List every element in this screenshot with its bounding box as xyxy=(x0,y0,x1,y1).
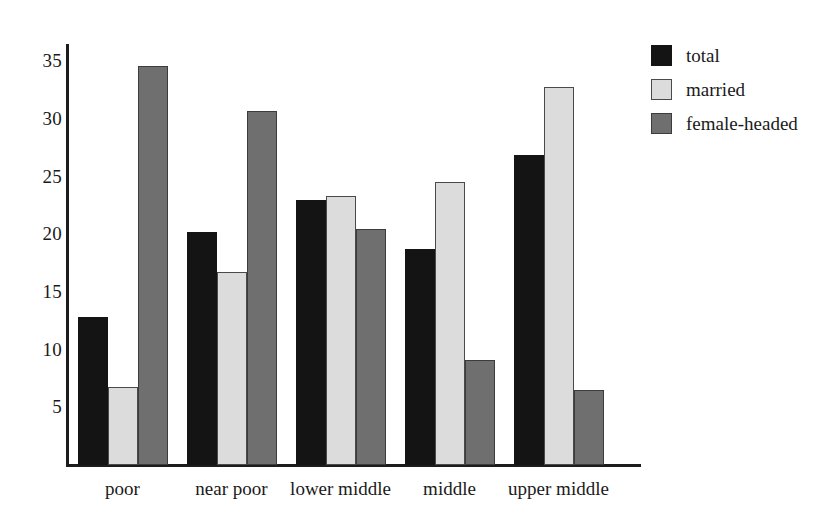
y-axis-tick-label: 35 xyxy=(16,51,62,70)
legend: totalmarriedfemale-headed xyxy=(651,40,833,142)
bar-female-headed-lower-middle xyxy=(356,229,386,465)
bar-group xyxy=(296,44,386,465)
legend-swatch-icon xyxy=(651,45,672,66)
bar-female-headed-middle xyxy=(465,360,495,465)
bar-total-poor xyxy=(78,317,108,465)
plot-area xyxy=(68,44,613,465)
bar-married-near-poor xyxy=(217,272,247,465)
bar-married-lower-middle xyxy=(326,196,356,465)
bar-female-headed-upper-middle xyxy=(574,390,604,465)
y-axis-tick-labels: 5101520253035 xyxy=(0,0,62,532)
bar-female-headed-near-poor xyxy=(247,111,277,465)
y-axis-tick-label: 20 xyxy=(16,224,62,243)
y-axis-tick-label: 5 xyxy=(16,397,62,416)
y-axis-tick-label: 10 xyxy=(16,340,62,359)
x-axis-category-label: middle xyxy=(395,478,504,500)
x-axis-category-label: lower middle xyxy=(286,478,395,500)
x-axis-category-label: upper middle xyxy=(504,478,613,500)
bar-female-headed-poor xyxy=(138,66,168,465)
y-axis-tick-label: 15 xyxy=(16,282,62,301)
legend-swatch-icon xyxy=(651,113,672,134)
bar-married-poor xyxy=(108,387,138,465)
bar-total-middle xyxy=(405,249,435,465)
x-axis-category-label: near poor xyxy=(177,478,286,500)
bar-married-middle xyxy=(435,182,465,465)
bar-chart: 5101520253035 poornear poorlower middlem… xyxy=(0,0,833,532)
x-axis-category-label: poor xyxy=(68,478,177,500)
legend-item-label: female-headed xyxy=(686,113,798,134)
bar-group xyxy=(405,44,495,465)
legend-item-label: married xyxy=(686,79,745,100)
bar-total-near-poor xyxy=(187,232,217,465)
bar-group xyxy=(514,44,604,465)
legend-swatch-icon xyxy=(651,79,672,100)
bar-total-lower-middle xyxy=(296,200,326,465)
legend-item-label: total xyxy=(686,45,720,66)
bar-group xyxy=(187,44,277,465)
bar-group xyxy=(78,44,168,465)
legend-item-total: total xyxy=(651,40,833,70)
bar-married-upper-middle xyxy=(544,87,574,465)
y-axis-tick-label: 25 xyxy=(16,167,62,186)
legend-item-female-headed: female-headed xyxy=(651,108,833,138)
bar-total-upper-middle xyxy=(514,155,544,465)
y-axis-tick-label: 30 xyxy=(16,109,62,128)
legend-item-married: married xyxy=(651,74,833,104)
